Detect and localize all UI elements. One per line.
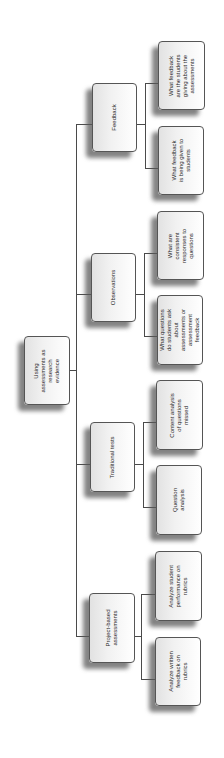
category-traditional-tests: Traditional tests (90, 422, 135, 492)
leaf-label: What feedback is being given to students (171, 139, 192, 183)
leaf-written-feedback: Analyze written feedback on rubrics (155, 637, 201, 706)
category-feedback: Feedback (92, 83, 137, 152)
trunk-line (76, 124, 77, 637)
leaf-label: Question analysis (172, 478, 186, 522)
category-label: Observations (110, 266, 117, 309)
observations-connector (76, 294, 91, 295)
feedback-branch-line (145, 83, 146, 169)
leaf-label: What questions do students ask about ass… (159, 308, 201, 352)
leaf-content-analysis: Content analysis of questions missed (156, 380, 203, 450)
leaf-label: Analyze student performance on rubrics (168, 564, 189, 609)
observations-branch-line (144, 253, 145, 337)
traditional-leaf2-tick (143, 507, 156, 508)
project-leaf2-tick (141, 679, 155, 680)
category-project-based: Project-based assessments (89, 593, 135, 663)
leaf-student-questions: What questions do students ask about ass… (157, 295, 203, 365)
leaf-label: What feedback are the students giving ab… (168, 53, 196, 98)
feedback-leaf1-tick (145, 83, 158, 84)
project-leaf1-tick (141, 594, 155, 595)
category-label: Traditional tests (109, 436, 116, 479)
category-label: Project-based assessments (105, 606, 119, 650)
leaf-feedback-students-giving: What feedback are the students giving ab… (158, 41, 205, 110)
leaf-question-analysis: Question analysis (156, 465, 202, 535)
leaf-student-performance: Analyze student performance on rubrics (155, 551, 202, 621)
category-label: Feedback (111, 96, 118, 139)
leaf-consistent-responses: What are consistent responses to questio… (157, 211, 204, 280)
leaf-label: Analyze written feedback on rubrics (168, 650, 189, 694)
feedback-leaf2-tick (145, 168, 158, 169)
leaf-label: Content analysis of questions missed (169, 393, 190, 438)
project-branch-line (141, 594, 142, 680)
traditional-branch-line (143, 422, 144, 508)
feedback-branch-stub (137, 124, 145, 125)
root-node: Using assessments as research evidence (24, 336, 70, 405)
traditional-leaf1-tick (143, 422, 156, 423)
root-label: Using assessments as research evidence (33, 349, 61, 393)
traditional-branch-stub (135, 464, 143, 465)
observations-leaf1-tick (144, 253, 157, 254)
observations-branch-stub (136, 294, 144, 295)
leaf-feedback-given: What feedback is being given to students (158, 126, 204, 195)
category-observations: Observations (91, 253, 136, 322)
feedback-connector (76, 124, 92, 125)
traditional-connector (76, 464, 90, 465)
project-connector (76, 636, 89, 637)
leaf-label: What are consistent responses to questio… (167, 223, 195, 268)
observations-leaf2-tick (144, 336, 157, 337)
